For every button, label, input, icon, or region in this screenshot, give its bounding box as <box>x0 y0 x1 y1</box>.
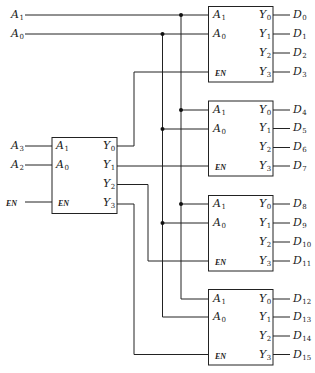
dec3-pin-y0: Y0 <box>259 198 271 213</box>
dec4-pin-y3: Y3 <box>259 349 271 364</box>
first-stage-pin-a0: A0 <box>56 159 69 174</box>
bus-a0 <box>163 34 209 317</box>
dec1-pin-en: EN <box>215 68 226 79</box>
dec2-pin-a1: A1 <box>213 104 226 119</box>
dec2-pin-y3: Y3 <box>259 160 271 175</box>
dec3-pin-y3: Y3 <box>259 255 271 270</box>
first-stage-pin-a1: A1 <box>56 140 69 155</box>
output-label-d0: D0 <box>293 9 307 24</box>
first-stage-pin-en: EN <box>58 198 69 209</box>
output-label-d13: D13 <box>293 311 311 326</box>
dec1-pin-y3: Y3 <box>259 66 271 81</box>
input-label-a3: A3 <box>11 140 24 155</box>
dec2-pin-y0: Y0 <box>259 104 271 119</box>
output-label-d6: D6 <box>293 141 307 156</box>
input-label-a2: A2 <box>11 159 24 174</box>
decoder-circuit-diagram: A1 A0 A3 A2 EN A1 A0 EN Y0 Y1 Y2 Y3 A1 A… <box>0 0 315 373</box>
output-label-d15: D15 <box>293 349 311 364</box>
output-label-d9: D9 <box>293 217 307 232</box>
dec1-pin-a0: A0 <box>213 28 226 43</box>
dec4-pin-a0: A0 <box>213 311 226 326</box>
output-label-d10: D10 <box>293 236 311 251</box>
dec3-pin-a1: A1 <box>213 198 226 213</box>
output-label-d11: D11 <box>293 255 311 270</box>
input-label-en: EN <box>6 198 17 209</box>
output-label-d4: D4 <box>293 104 307 119</box>
dec2-pin-a0: A0 <box>213 123 226 138</box>
output-label-d2: D2 <box>293 47 307 62</box>
dec1-pin-y0: Y0 <box>259 9 271 24</box>
dec3-pin-y2: Y2 <box>259 236 271 251</box>
dec4-pin-y1: Y1 <box>259 311 271 326</box>
first-stage-pin-y2: Y2 <box>103 178 115 193</box>
first-stage-pin-y3: Y3 <box>103 197 115 212</box>
junction-dots <box>161 13 184 225</box>
dec2-pin-y2: Y2 <box>259 141 271 156</box>
output-label-d8: D8 <box>293 198 307 213</box>
output-label-d1: D1 <box>293 28 307 43</box>
dec1-pin-a1: A1 <box>213 9 226 24</box>
input-label-a0: A0 <box>11 28 24 43</box>
output-label-d3: D3 <box>293 66 307 81</box>
dec1-pin-y2: Y2 <box>259 47 271 62</box>
first-stage-pin-y1: Y1 <box>103 159 115 174</box>
output-label-d14: D14 <box>293 330 311 345</box>
output-label-d12: D12 <box>293 293 311 308</box>
dec2-pin-en: EN <box>215 162 226 173</box>
dec3-pin-en: EN <box>215 257 226 268</box>
output-label-d5: D5 <box>293 122 307 137</box>
dec1-pin-y1: Y1 <box>259 28 271 43</box>
dec2-pin-y1: Y1 <box>259 122 271 137</box>
output-label-d7: D7 <box>293 160 307 175</box>
dec3-pin-y1: Y1 <box>259 217 271 232</box>
bus-a1 <box>181 15 209 299</box>
dec4-pin-y2: Y2 <box>259 330 271 345</box>
input-label-a1: A1 <box>11 9 24 24</box>
first-stage-pin-y0: Y0 <box>103 140 115 155</box>
dec4-pin-a1: A1 <box>213 293 226 308</box>
dec3-pin-a0: A0 <box>213 217 226 232</box>
dec4-pin-en: EN <box>215 351 226 362</box>
dec4-pin-y0: Y0 <box>259 293 271 308</box>
